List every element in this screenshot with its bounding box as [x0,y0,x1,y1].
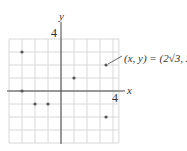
coordinate-plane: (x, y) = (2√3, 2) y 4 x 4 [0,0,187,151]
data-point [104,63,107,66]
data-points [20,50,107,118]
data-point [33,102,36,105]
x-axis-label: x [126,84,132,96]
y-axis-label: y [58,10,64,22]
annotation-label: (x, y) = (2√3, 2) [124,52,187,65]
data-point [20,89,23,92]
annotation-leader-line [108,56,122,64]
data-point [72,76,75,79]
data-point [46,102,49,105]
data-point [20,50,23,53]
x-tick-label: 4 [112,91,118,105]
data-point [104,115,107,118]
y-tick-label: 4 [51,26,57,40]
